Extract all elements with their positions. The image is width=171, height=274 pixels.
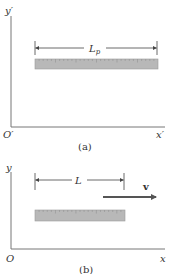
ruler-at-rest xyxy=(35,59,158,69)
ruler-moving xyxy=(35,210,125,221)
velocity-label: v xyxy=(142,181,150,192)
y-prime-axis-label: y′ xyxy=(4,5,14,16)
panel-a: y′ O′ x′ (a) Lp xyxy=(3,5,165,152)
contracted-length-label: L xyxy=(74,175,82,186)
origin-prime-label: O′ xyxy=(3,129,14,140)
x-prime-axis-label: x′ xyxy=(156,129,165,140)
x-axis-label: x xyxy=(160,253,166,264)
y-axis-label: y xyxy=(5,162,12,173)
contracted-length-bracket: L xyxy=(35,173,124,190)
panel-b: y O x (b) L v xyxy=(5,162,166,274)
proper-length-label: Lp xyxy=(88,43,101,56)
caption-b: (b) xyxy=(79,264,93,274)
length-contraction-diagram: y′ O′ x′ (a) Lp y O x (b) xyxy=(0,0,171,274)
caption-a: (a) xyxy=(78,141,92,152)
proper-length-bracket: Lp xyxy=(35,41,157,56)
origin-label: O xyxy=(6,253,14,264)
velocity-vector: v xyxy=(103,181,156,197)
